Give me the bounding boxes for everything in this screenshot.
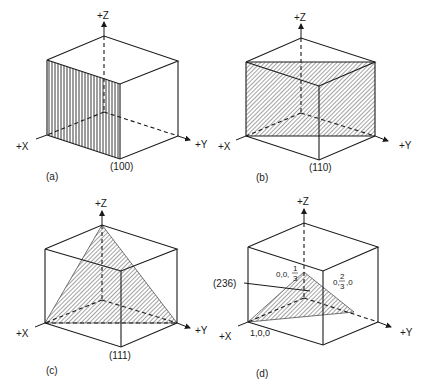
z-axis-label: +Z bbox=[297, 196, 309, 207]
y-axis-arrow bbox=[177, 323, 190, 328]
panel-caption: (d) bbox=[256, 368, 268, 379]
svg-text:1: 1 bbox=[293, 264, 298, 273]
x-axis-arrow bbox=[35, 323, 45, 327]
plane-label: (110) bbox=[309, 162, 332, 173]
plane-label: (236) bbox=[213, 278, 236, 289]
svg-text:3: 3 bbox=[293, 274, 298, 283]
x-intercept-label: 1,0,0 bbox=[250, 328, 270, 338]
panel-caption: (b) bbox=[256, 172, 268, 183]
x-axis-arrow bbox=[236, 136, 246, 140]
panel-b: +Z +X +Y (110) (b) bbox=[218, 12, 412, 183]
z-axis-label: +Z bbox=[294, 12, 306, 23]
plane-110-hatch bbox=[246, 62, 375, 136]
z-axis-label: +Z bbox=[95, 198, 107, 209]
svg-text:2: 2 bbox=[340, 272, 345, 281]
x-axis-arrow bbox=[36, 135, 47, 139]
y-axis-arrow bbox=[375, 136, 388, 141]
y-intercept-label: 0, 2 3 ,0 bbox=[333, 272, 353, 291]
y-axis-label: +Y bbox=[399, 140, 412, 151]
panel-d: +Z +X +Y (d) (236) 1,0,0 0,0, 1 3 0, 2 3… bbox=[213, 196, 413, 379]
y-axis-arrow bbox=[178, 136, 190, 140]
svg-text:,0: ,0 bbox=[346, 278, 353, 287]
y-axis-arrow bbox=[378, 322, 391, 327]
svg-text:0,0,: 0,0, bbox=[276, 270, 289, 279]
panel-a: +Z +X +Y (100) (a) bbox=[16, 10, 208, 182]
x-axis-label: +X bbox=[16, 141, 29, 152]
panel-caption: (a) bbox=[46, 171, 58, 182]
y-axis-label: +Y bbox=[195, 139, 208, 150]
y-axis-label: +Y bbox=[195, 325, 208, 336]
x-axis-label: +X bbox=[218, 141, 231, 152]
x-axis-arrow bbox=[238, 322, 248, 326]
z-intercept-label: 0,0, 1 3 bbox=[276, 264, 298, 283]
svg-text:0,: 0, bbox=[333, 278, 340, 287]
panel-c: +Z +X +Y (111) (c) bbox=[16, 198, 208, 376]
miller-indices-figure: +Z +X +Y (100) (a) +Z +X +Y (110) (b) bbox=[0, 0, 426, 385]
plane-label: (111) bbox=[109, 350, 131, 361]
plane-111-hatch bbox=[45, 225, 177, 323]
x-axis-label: +X bbox=[219, 331, 232, 342]
svg-text:3: 3 bbox=[340, 282, 345, 291]
plane-label: (100) bbox=[110, 161, 133, 172]
panel-caption: (c) bbox=[46, 365, 58, 376]
z-axis-label: +Z bbox=[97, 10, 109, 21]
x-axis-label: +X bbox=[16, 328, 29, 339]
plane-100-hatch bbox=[47, 60, 120, 159]
y-axis-label: +Y bbox=[400, 327, 413, 338]
